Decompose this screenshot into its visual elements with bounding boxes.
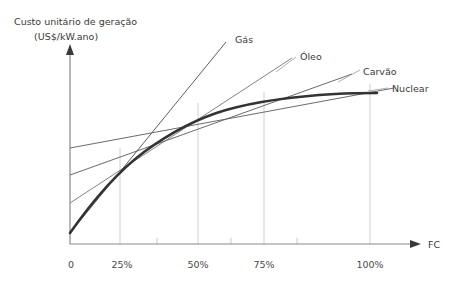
series-label-carvao: Carvão [363, 66, 397, 77]
x-tick-label-0: 0 [68, 259, 74, 270]
chart-figure: Custo unitário de geração (US$/kW.ano) F… [0, 0, 454, 286]
series-line-oleo [70, 58, 292, 203]
series-label-gas: Gás [235, 34, 253, 45]
series-line-gas [70, 42, 226, 233]
x-axis-title: FC [428, 239, 440, 250]
x-tick-label-100: 100% [356, 259, 383, 270]
y-axis-title-line2: (US$/kW.ano) [34, 31, 98, 42]
envelope-curve [70, 93, 377, 233]
series-lines [70, 42, 394, 233]
chart-canvas: Custo unitário de geração (US$/kW.ano) F… [0, 0, 454, 286]
y-axis-title-line1: Custo unitário de geração [14, 16, 137, 27]
series-line-carvao [70, 74, 352, 175]
gridlines [120, 84, 370, 244]
series-label-nuclear: Nuclear [392, 83, 429, 94]
y-axis-arrowhead [66, 44, 74, 55]
leader-line-oleo [276, 57, 296, 72]
x-tick-label-25: 25% [111, 259, 132, 270]
minor-ticks [157, 238, 297, 244]
series-label-oleo: Óleo [300, 51, 322, 62]
x-tick-label-50: 50% [187, 259, 208, 270]
x-axis-arrowhead [410, 240, 421, 248]
x-tick-label-75: 75% [253, 259, 274, 270]
leader-line-carvao [338, 70, 360, 82]
